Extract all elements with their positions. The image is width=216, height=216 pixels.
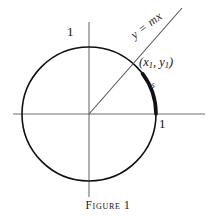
point-coordinates-label: (x1, y1)	[139, 56, 173, 69]
x-axis-unit-label: 1	[159, 117, 166, 130]
y-axis-unit-label: 1	[67, 25, 74, 38]
arc-length-label: s	[151, 80, 155, 90]
point-paren-close: )	[169, 55, 173, 69]
figure-caption: Figure 1	[0, 199, 216, 211]
figure-container: 1 1 y = mx (x1, y1) s Figure 1	[0, 0, 216, 216]
figure-graphic	[0, 0, 216, 216]
